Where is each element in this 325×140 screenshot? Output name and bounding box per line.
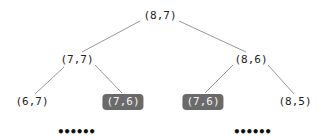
node-right-left-highlighted: (7,6) <box>182 94 223 110</box>
edge-left-rightchild <box>95 65 122 93</box>
edge-root-right <box>179 21 246 52</box>
edge-root-left <box>82 21 140 52</box>
ellipsis-right: •••••• <box>233 125 270 139</box>
edge-left-leftchild <box>35 67 64 94</box>
node-left-left: (6,7) <box>11 94 52 110</box>
ellipsis-left: •••••• <box>57 125 94 139</box>
node-right-right: (8,5) <box>274 94 315 110</box>
edge-right-rightchild <box>268 65 294 94</box>
node-root: (8,7) <box>139 8 180 24</box>
node-left-right-highlighted: (7,6) <box>102 94 143 110</box>
edge-right-leftchild <box>205 65 233 93</box>
node-left: (7,7) <box>56 52 97 68</box>
node-right: (8,6) <box>230 52 271 68</box>
